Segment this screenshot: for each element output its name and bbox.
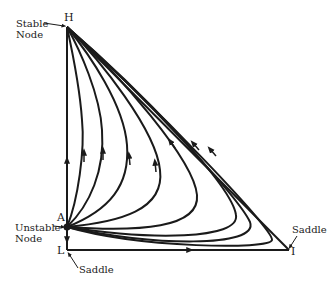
trajectory-6 xyxy=(67,27,236,236)
arrow-up-icon xyxy=(155,162,156,172)
arrow-up-icon xyxy=(129,155,130,165)
pointer-saddle-L xyxy=(69,254,78,268)
arrow-up-icon xyxy=(210,149,216,156)
node-label-I: I xyxy=(291,246,295,257)
unstable-node-label-2: Node xyxy=(15,233,42,244)
saddle-L-label: Saddle xyxy=(79,264,114,275)
node-A-marker xyxy=(64,224,71,231)
stable-node-label-2: Node xyxy=(16,29,43,40)
saddle-I-label: Saddle xyxy=(292,224,327,235)
trajectory-1 xyxy=(67,27,83,227)
stable-node-label-1: Stable xyxy=(16,18,48,29)
trajectory-7 xyxy=(67,27,251,241)
unstable-node-label-1: Unstable xyxy=(15,222,61,233)
node-label-L: L xyxy=(57,245,64,256)
node-label-H: H xyxy=(64,12,74,23)
arrow-up-icon xyxy=(170,141,175,148)
trajectory-5 xyxy=(67,27,197,229)
phase-portrait-diagram xyxy=(0,0,335,288)
